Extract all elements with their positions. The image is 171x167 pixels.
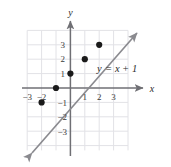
graph-canvas: −3 −2 1 2 3 3 2 1 −1 −2 −3 x y y = x + 1: [0, 0, 171, 167]
x-tick-label: 1: [83, 92, 88, 102]
data-point: [53, 85, 59, 91]
x-axis-label: x: [149, 83, 155, 94]
y-tick-label: 2: [61, 54, 66, 64]
x-tick-label: −2: [37, 92, 47, 102]
grid-lines: [27, 30, 128, 150]
equation-lhs: y: [96, 63, 102, 74]
data-point: [82, 56, 88, 62]
equation-term-x: x: [114, 63, 120, 74]
equation-equals: =: [105, 63, 112, 74]
x-tick-label: −3: [22, 92, 32, 102]
equation-constant: 1: [132, 63, 137, 74]
y-tick-label: 1: [61, 69, 66, 79]
x-axis-tick-labels: −3 −2 1 2 3: [22, 92, 116, 102]
data-point: [96, 42, 102, 48]
x-tick-label: 2: [97, 92, 102, 102]
data-point: [67, 71, 73, 77]
equation-plus: +: [122, 63, 129, 74]
y-tick-label: 3: [61, 40, 66, 50]
y-tick-label: −2: [57, 112, 67, 122]
coordinate-plane-figure: −3 −2 1 2 3 3 2 1 −1 −2 −3 x y y = x + 1: [0, 0, 171, 167]
x-tick-label: 3: [111, 92, 116, 102]
y-tick-label: −1: [57, 98, 67, 108]
y-axis-label: y: [67, 7, 73, 18]
y-tick-label: −3: [57, 127, 67, 137]
